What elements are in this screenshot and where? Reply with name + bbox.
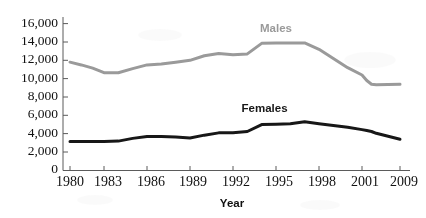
y-tick-label: 16,000 bbox=[21, 15, 58, 30]
x-tick-label: 1986 bbox=[137, 174, 165, 189]
y-tick-label: 10,000 bbox=[21, 70, 58, 85]
x-tick-label: 2001 bbox=[351, 174, 379, 189]
x-tick-label: 1992 bbox=[222, 174, 250, 189]
series-label-females: Females bbox=[242, 102, 288, 114]
series-label-males: Males bbox=[260, 22, 292, 34]
chart-container: 16,000 14,000 12,000 10,000 8,000 6,000 … bbox=[0, 0, 426, 218]
x-tick-marks bbox=[70, 166, 400, 171]
y-tick-label: 14,000 bbox=[21, 33, 58, 48]
x-tick-label: 1980 bbox=[56, 174, 84, 189]
x-tick-label: 1989 bbox=[179, 174, 207, 189]
x-axis-title: Year bbox=[220, 197, 245, 209]
y-tick-label: 12,000 bbox=[21, 51, 58, 66]
y-tick-label: 2,000 bbox=[28, 143, 59, 158]
x-tick-label: 1983 bbox=[94, 174, 122, 189]
series-line-females bbox=[70, 122, 400, 142]
x-axis-tick-labels: 1980 1983 1986 1989 1992 1995 1998 2001 … bbox=[56, 174, 418, 189]
y-tick-label: 6,000 bbox=[28, 106, 59, 121]
y-tick-label: 8,000 bbox=[28, 88, 59, 103]
y-tick-label: 4,000 bbox=[28, 125, 59, 140]
y-tick-marks bbox=[63, 24, 68, 152]
line-chart: 16,000 14,000 12,000 10,000 8,000 6,000 … bbox=[0, 0, 426, 218]
x-tick-label: 1998 bbox=[308, 174, 336, 189]
axis-lines bbox=[63, 17, 410, 171]
x-tick-label: 1995 bbox=[265, 174, 293, 189]
y-axis-tick-labels: 16,000 14,000 12,000 10,000 8,000 6,000 … bbox=[21, 15, 58, 176]
x-tick-label: 2009 bbox=[390, 174, 418, 189]
